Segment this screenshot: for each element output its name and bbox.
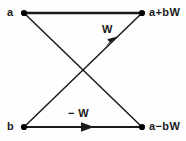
node-label-input-top: a [7, 7, 14, 18]
node-output-bottom [139, 124, 145, 130]
edge-label-weight-bottom: − W [68, 108, 89, 119]
node-input-top [21, 10, 27, 16]
edge-label-weight-up: W [102, 24, 113, 35]
butterfly-diagram: a a+bW b a−bW W − W [0, 0, 186, 141]
node-output-top [139, 10, 145, 16]
arrowhead-diagonal-up-icon [105, 36, 119, 47]
arrowhead-bottom-horizontal-icon [81, 122, 94, 132]
node-label-input-bottom: b [7, 121, 14, 132]
node-label-output-bottom: a−bW [149, 121, 180, 132]
node-input-bottom [21, 124, 27, 130]
node-label-output-top: a+bW [149, 7, 180, 18]
